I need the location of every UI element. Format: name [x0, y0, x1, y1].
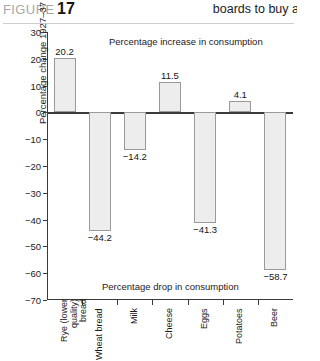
annotation-drop: Percentage drop in consumption [102, 281, 239, 292]
bar-value-label: 11.5 [148, 70, 192, 81]
x-axis-category-label: Cheese [165, 308, 175, 360]
bar-value-label: 4.1 [218, 89, 262, 100]
y-tick-label: −30 [25, 187, 41, 198]
bar [264, 112, 286, 269]
x-tick-mark [188, 300, 189, 305]
x-axis-category-label: Milk [130, 308, 140, 360]
y-tick-mark [43, 246, 47, 247]
x-axis-category-label: Potatoes [235, 308, 245, 360]
bar-value-label: −41.3 [183, 224, 227, 235]
bar [229, 101, 251, 112]
bar [89, 112, 111, 230]
zero-baseline [47, 112, 293, 114]
bar-value-label: −44.2 [78, 232, 122, 243]
x-axis-category-label: Wheat bread [95, 308, 105, 360]
y-tick-mark [43, 220, 47, 221]
y-tick-mark [43, 273, 47, 274]
y-tick-label: −70 [25, 295, 41, 306]
bar-value-label: −14.2 [113, 151, 157, 162]
annotation-increase: Percentage increase in consumption [109, 36, 263, 47]
y-tick-label: −40 [25, 214, 41, 225]
bar-value-label: 20.2 [43, 46, 87, 57]
y-tick-mark [43, 166, 47, 167]
bar [54, 58, 76, 112]
x-axis-category-label: Beer [270, 308, 280, 360]
x-tick-mark [152, 300, 153, 305]
bar [159, 82, 181, 113]
y-tick-label: −10 [25, 134, 41, 145]
x-axis-category-label: Eggs [200, 308, 210, 360]
y-tick-label: −50 [25, 241, 41, 252]
x-tick-mark [258, 300, 259, 305]
running-head-text: boards to buy a [213, 2, 297, 16]
y-tick-label: −20 [25, 161, 41, 172]
y-tick-mark [43, 139, 47, 140]
y-axis-title: Percentage change 1927–37 [37, 2, 48, 124]
bar-value-label: −58.7 [253, 271, 297, 282]
y-tick-label: −60 [25, 268, 41, 279]
bar [194, 112, 216, 223]
bar [124, 112, 146, 150]
x-axis-category-label: Rye (lower quality) bread [60, 299, 89, 353]
y-tick-mark [43, 193, 47, 194]
bar-chart: 3020100−10−20−30−40−50−60−70 20.2−44.2−1… [47, 32, 293, 300]
x-axis-category-labels: Rye (lower quality) breadWheat breadMilk… [47, 300, 293, 361]
x-tick-mark [117, 300, 118, 305]
x-tick-mark [223, 300, 224, 305]
figure-number: 17 [57, 0, 75, 18]
